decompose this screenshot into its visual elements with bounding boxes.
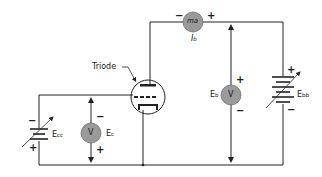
triode-circuit-diagram xyxy=(0,0,322,177)
grid-supply-minus: − xyxy=(28,116,36,126)
plate-electrode xyxy=(140,84,156,87)
ammeter-label: Ib xyxy=(191,35,197,43)
grid-supply-plus: + xyxy=(29,143,37,153)
top-wire xyxy=(203,22,283,76)
plate-voltage-label: Eb xyxy=(210,91,219,99)
plate-supply-label: Ebb xyxy=(297,91,309,99)
plate-voltmeter-minus: − xyxy=(236,106,244,116)
junction-dot xyxy=(142,164,145,167)
plate-supply-battery xyxy=(266,73,299,108)
plate-supply-sub: bb xyxy=(302,92,309,98)
plate-lead-wire xyxy=(150,22,183,84)
grid-loop-top-wire xyxy=(39,95,133,128)
cathode-electrode xyxy=(139,105,157,110)
plate-supply-minus: − xyxy=(287,105,295,115)
grid-voltmeter-symbol: V xyxy=(88,129,93,137)
triode-label: Triode xyxy=(92,63,116,71)
triode-leader xyxy=(122,67,135,80)
grid-voltage-sub: c xyxy=(111,131,114,137)
plate-supply-plus: + xyxy=(287,65,295,75)
ammeter-label-sub: b xyxy=(193,36,197,42)
plate-voltmeter-plus: + xyxy=(236,75,244,85)
ammeter-minus: − xyxy=(175,11,183,21)
grid-electrode xyxy=(134,96,156,98)
grid-supply-label: Ecc xyxy=(52,131,63,139)
triode-tube xyxy=(122,67,165,114)
grid-voltage-label: Ec xyxy=(106,130,114,138)
grid-supply-sub: cc xyxy=(57,132,63,138)
ammeter-symbol: ma xyxy=(187,18,198,25)
grid-voltmeter-plus: + xyxy=(96,145,104,155)
grid-voltmeter-minus: − xyxy=(96,112,104,122)
wires xyxy=(39,22,283,165)
plate-voltmeter-symbol: V xyxy=(228,91,233,99)
ammeter-plus: + xyxy=(207,11,215,21)
plate-voltage-sub: b xyxy=(215,92,219,98)
